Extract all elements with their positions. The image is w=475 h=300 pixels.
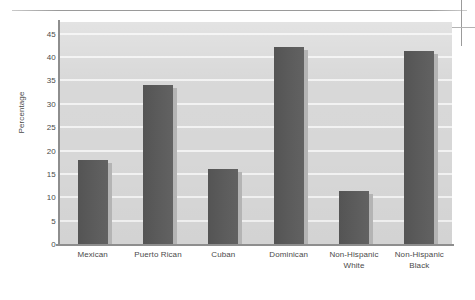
bar bbox=[274, 47, 304, 244]
bar bbox=[404, 51, 434, 244]
x-axis-tick-label-line: White bbox=[321, 261, 386, 272]
y-axis-tick-label: 10 bbox=[30, 193, 56, 202]
x-axis-tick-label-line: Puerto Rican bbox=[125, 250, 190, 261]
y-axis-tick-label: 20 bbox=[30, 146, 56, 155]
bar-slot bbox=[60, 22, 125, 244]
y-axis-tick-label: 30 bbox=[30, 99, 56, 108]
bar bbox=[208, 169, 238, 244]
x-axis-tick-label: Non-HispanicBlack bbox=[387, 250, 452, 271]
bar-slot bbox=[387, 22, 452, 244]
bar-slot bbox=[256, 22, 321, 244]
x-axis-tick-label-line: Non-Hispanic bbox=[321, 250, 386, 261]
y-axis-tick-label: 40 bbox=[30, 53, 56, 62]
y-axis-tick-label: 35 bbox=[30, 76, 56, 85]
x-axis-tick-label-line: Non-Hispanic bbox=[387, 250, 452, 261]
bar bbox=[339, 191, 369, 244]
bar-chart-figure: Percentage 051015202530354045 MexicanPue… bbox=[0, 0, 475, 300]
x-axis-tick-label: Mexican bbox=[60, 250, 125, 261]
y-axis-tick-label: 0 bbox=[30, 240, 56, 249]
x-axis-tick-label: Cuban bbox=[191, 250, 256, 261]
x-axis-tick-label-line: Mexican bbox=[60, 250, 125, 261]
x-axis-tick-label: Non-HispanicWhite bbox=[321, 250, 386, 271]
y-axis-tick-label: 45 bbox=[30, 29, 56, 38]
x-axis-tick-label-line: Dominican bbox=[256, 250, 321, 261]
x-axis-tick-label: Puerto Rican bbox=[125, 250, 190, 261]
x-axis-tick-label: Dominican bbox=[256, 250, 321, 261]
x-axis-tick-labels: MexicanPuerto RicanCubanDominicanNon-His… bbox=[60, 250, 452, 294]
bar bbox=[78, 160, 108, 244]
x-axis-tick-label-line: Black bbox=[387, 261, 452, 272]
bar bbox=[143, 85, 173, 244]
y-axis-tick-label: 15 bbox=[30, 169, 56, 178]
x-axis-tick-label-line: Cuban bbox=[191, 250, 256, 261]
bars-layer bbox=[60, 22, 452, 244]
x-axis-line bbox=[56, 244, 454, 246]
y-axis-tick-label: 25 bbox=[30, 123, 56, 132]
bar-slot bbox=[191, 22, 256, 244]
y-axis-title: Percentage bbox=[17, 73, 26, 153]
y-axis-tick-labels: 051015202530354045 bbox=[30, 22, 56, 244]
bar-slot bbox=[321, 22, 386, 244]
y-axis-tick-label: 5 bbox=[30, 216, 56, 225]
bar-slot bbox=[125, 22, 190, 244]
